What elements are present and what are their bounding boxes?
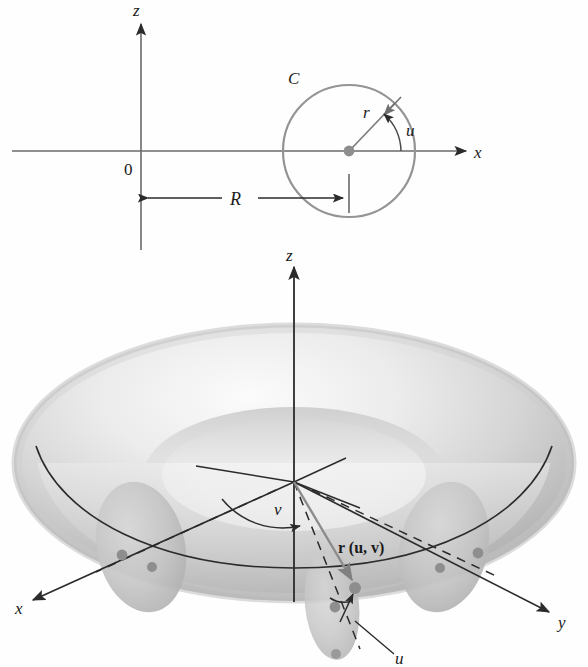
cross-section-angle-u-label: u <box>406 121 415 140</box>
torus-axis-intersection-dot-left-inner <box>147 562 157 572</box>
torus-axis-intersection-dot-right-inner <box>435 563 445 573</box>
cross-section-radius-arrow <box>352 97 401 148</box>
torus-angle-u-leader <box>355 621 394 654</box>
cross-section-panel: z x 0 C r <box>0 0 588 250</box>
cross-section-origin-label: 0 <box>124 160 133 179</box>
cross-section-distance-r-label: R <box>229 189 241 209</box>
torus-angle-u-label: u <box>395 649 404 667</box>
torus-panel: z x y <box>0 250 588 667</box>
torus-position-vector-label: r (u, v) <box>338 539 384 557</box>
cross-section-radius-label: r <box>363 103 370 122</box>
torus-axis-intersection-dot-right-outer <box>473 548 484 559</box>
cross-section-x-axis-label: x <box>473 143 482 162</box>
torus-z-axis-label: z <box>285 250 293 265</box>
torus-surface-point-dot <box>349 582 361 594</box>
torus-svg: z x y <box>0 250 588 667</box>
cross-section-svg: z x 0 C r <box>0 0 588 250</box>
torus-axis-intersection-dot-left-outer <box>117 550 128 561</box>
torus-angle-v-label: v <box>274 500 282 519</box>
torus-y-axis-label: y <box>556 613 566 632</box>
cross-section-z-axis-label: z <box>132 1 140 20</box>
torus-tube-center-dot <box>330 602 341 613</box>
figure-root: z x 0 C r <box>0 0 588 667</box>
torus-x-axis-label: x <box>14 599 23 618</box>
torus-front-tube-bottom-dot <box>331 649 341 659</box>
cross-section-angle-u-arc <box>384 114 401 151</box>
cross-section-circle-label: C <box>288 69 300 88</box>
